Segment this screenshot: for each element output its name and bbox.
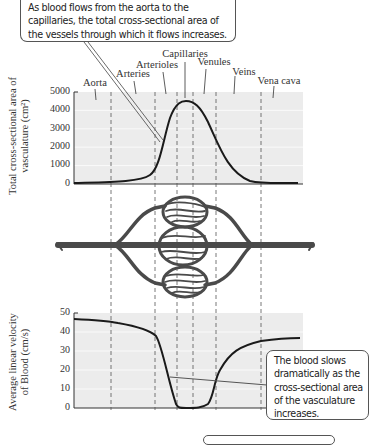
top-y-axis-label: Total cross-sectional area of vasculatur… [7, 51, 31, 221]
segment-label-vena-cava: Vena cava [258, 75, 301, 86]
bottom-tick-20: 20 [42, 363, 70, 374]
top-callout-line-2: capillaries, the total cross-sectional a… [28, 14, 235, 27]
top-tick-2000: 2000 [42, 140, 70, 151]
bottom-tick-30: 30 [42, 344, 70, 355]
top-tick-0: 0 [42, 177, 70, 188]
partial-callout-box [203, 435, 335, 445]
bottom-callout-line-5: increases. [274, 407, 368, 420]
top-tick-5000: 5000 [42, 85, 70, 96]
bottom-tick-40: 40 [42, 325, 70, 336]
top-y-axis-label-line-2: vasculature (cm²) [19, 51, 31, 221]
top-callout: As blood flows from the aorta to the cap… [20, 0, 236, 42]
top-callout-line-3: the vessels through which it flows incre… [28, 28, 235, 41]
top-y-axis-label-line-1: Total cross-sectional area of [7, 51, 19, 221]
bottom-tick-10: 10 [42, 382, 70, 393]
top-plot-area [74, 92, 303, 184]
bottom-y-axis-label-line-1: Average linear velocity [7, 297, 19, 427]
segment-label-arterioles: Arterioles [136, 59, 178, 70]
bottom-callout-line-1: The blood slows [274, 354, 368, 367]
segment-label-venules: Venules [197, 56, 230, 67]
vessel-diagram [57, 197, 313, 297]
segment-label-veins: Veins [232, 66, 255, 77]
top-tick-1000: 1000 [42, 158, 70, 169]
bottom-tick-0: 0 [42, 401, 70, 412]
top-tick-3000: 3000 [42, 122, 70, 133]
bottom-callout-line-3: cross-sectional area [274, 381, 368, 394]
bottom-callout-line-2: dramatically as the [274, 367, 368, 380]
bottom-callout-line-4: of the vasculature [274, 394, 368, 407]
bottom-y-axis-label-line-2: of Blood (cm/s) [19, 297, 31, 427]
bottom-y-axis-label: Average linear velocity of Blood (cm/s) [7, 297, 31, 427]
segment-label-aorta: Aorta [83, 77, 107, 88]
top-tick-4000: 4000 [42, 103, 70, 114]
bottom-tick-50: 50 [42, 306, 70, 317]
bottom-callout: The blood slows dramatically as the cros… [266, 350, 369, 420]
top-callout-line-1: As blood flows from the aorta to the [28, 1, 235, 14]
